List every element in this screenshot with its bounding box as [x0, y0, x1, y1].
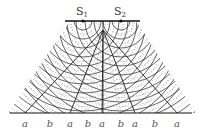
source-2-dot: [119, 19, 122, 22]
trough-arc: [27, 21, 203, 115]
source-1-label: S1: [76, 5, 88, 19]
trough-arc: [16, 21, 151, 88]
screen-label: a: [132, 118, 138, 129]
screen-label: a: [174, 118, 180, 129]
screen-label: b: [85, 118, 91, 129]
crest-arc: [22, 21, 202, 120]
screen-label: b: [152, 118, 158, 129]
screen-labels: a b a b a b a b a: [22, 118, 180, 129]
screen-label: b: [47, 118, 53, 129]
trough-arc: [54, 21, 189, 89]
source-2-label: S2: [114, 5, 126, 19]
trough-arc: [0, 21, 187, 124]
trough-arc: [18, 21, 203, 124]
screen-label: a: [67, 118, 73, 129]
screen-label: a: [22, 118, 28, 129]
screen-label: a: [99, 118, 105, 129]
source-1-dot: [81, 19, 84, 22]
crest-arc: [0, 21, 182, 120]
trough-arc: [0, 21, 178, 116]
antinodal-line: [103, 30, 135, 113]
interference-diagram: S1 S2 a b a b a b a b a: [0, 0, 202, 139]
screen-label: b: [118, 118, 124, 129]
trough-arc: [70, 21, 97, 35]
trough-arc: [108, 21, 135, 35]
